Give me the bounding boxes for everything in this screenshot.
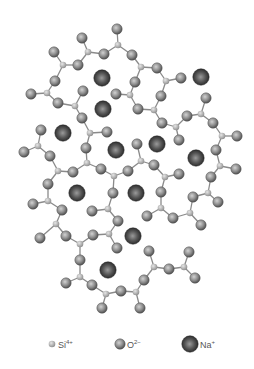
silicon-atom [115, 42, 122, 49]
oxygen-atom [45, 151, 55, 161]
silicon-atom [84, 160, 91, 167]
oxygen-atom [87, 206, 97, 216]
oxygen-atom [78, 86, 88, 96]
sodium-ion [125, 228, 141, 244]
oxygen-atom [73, 60, 83, 70]
oxygen-atom [57, 205, 67, 215]
sodium-ion [95, 101, 111, 117]
oxygen-atom [157, 118, 167, 128]
silicon-atom [44, 90, 51, 97]
atoms-layer [19, 24, 242, 313]
oxygen-atom [81, 143, 91, 153]
oxygen-atom [182, 111, 192, 121]
silicon-atom [151, 107, 158, 114]
silicon-atom [105, 206, 112, 213]
oxygen-atom [144, 246, 154, 256]
silicon-atom [111, 173, 118, 180]
silicon-atom [35, 143, 42, 150]
oxygen-atom [99, 49, 109, 59]
oxygen-atom [231, 164, 241, 174]
oxygen-atom [112, 24, 122, 34]
oxygen-atom [156, 187, 166, 197]
oxygen-atom [142, 211, 152, 221]
silicon-atom [127, 92, 134, 99]
silicon-atom [77, 241, 84, 248]
silicate-glass-diagram: Si4+O2−Na+ [0, 0, 254, 369]
sodium-ion [188, 150, 204, 166]
sodium-ion [55, 125, 71, 141]
oxygen-atom [174, 135, 184, 145]
oxygen-atom [68, 167, 78, 177]
silicon-atom [45, 198, 52, 205]
oxygen-atom [77, 113, 87, 123]
oxygen-atom [108, 188, 118, 198]
oxygen-atom [113, 216, 123, 226]
sodium-ion [108, 142, 124, 158]
oxygen-atom [49, 47, 59, 57]
silicon-atom [53, 221, 60, 228]
oxygen-atom [96, 164, 106, 174]
silicon-atom [162, 174, 169, 181]
sodium-ion [100, 262, 116, 278]
sodium-ion [69, 185, 85, 201]
legend-label: Si4+ [58, 339, 73, 350]
legend-marker-sodium-ion [182, 336, 198, 352]
silicon-atom [217, 163, 224, 170]
oxygen-atom [111, 89, 121, 99]
legend-item-na: Na+ [182, 336, 216, 352]
silicon-atom [173, 124, 180, 131]
silicon-atom [181, 264, 188, 271]
legend-marker-silicon-atom [49, 341, 56, 348]
legend-item-si: Si4+ [49, 339, 74, 350]
oxygen-atom [213, 197, 223, 207]
oxygen-atom [116, 286, 126, 296]
silicon-atom [87, 130, 94, 137]
oxygen-atom [156, 91, 166, 101]
silicon-atom [60, 62, 67, 69]
legend-label: O2− [127, 339, 141, 350]
silicon-atom [138, 64, 145, 71]
oxygen-atom [168, 213, 178, 223]
oxygen-atom [35, 233, 45, 243]
oxygen-atom [77, 33, 87, 43]
oxygen-atom [102, 127, 112, 137]
oxygen-atom [50, 76, 60, 86]
oxygen-atom [139, 275, 149, 285]
oxygen-atom [88, 230, 98, 240]
oxygen-atom [61, 278, 71, 288]
oxygen-atom [87, 280, 97, 290]
oxygen-atom [201, 93, 211, 103]
legend-item-o: O2− [115, 339, 142, 350]
oxygen-atom [206, 172, 216, 182]
oxygen-atom [43, 179, 53, 189]
silicon-atom [205, 190, 212, 197]
oxygen-atom [190, 273, 200, 283]
oxygen-atom [97, 303, 107, 313]
oxygen-atom [133, 104, 143, 114]
oxygen-atom [132, 139, 142, 149]
oxygen-atom [75, 255, 85, 265]
silicon-atom [77, 274, 84, 281]
silicon-atom [187, 210, 194, 217]
oxygen-atom [176, 73, 186, 83]
silicon-atom [85, 49, 92, 56]
silicon-atom [219, 133, 226, 140]
oxygen-atom [135, 303, 145, 313]
silicon-atom [55, 168, 62, 175]
oxygen-atom [19, 147, 29, 157]
oxygen-atom [26, 89, 36, 99]
oxygen-atom [123, 166, 133, 176]
silicon-atom [103, 291, 110, 298]
oxygen-atom [130, 77, 140, 87]
oxygen-atom [196, 220, 206, 230]
silicon-atom [151, 264, 158, 271]
oxygen-atom [184, 247, 194, 257]
silicon-atom [133, 289, 140, 296]
silicon-atom [158, 205, 165, 212]
oxygen-atom [149, 160, 159, 170]
oxygen-atom [112, 243, 122, 253]
legend-label: Na+ [200, 339, 216, 350]
sodium-ion [149, 136, 165, 152]
oxygen-atom [53, 98, 63, 108]
oxygen-atom [164, 264, 174, 274]
